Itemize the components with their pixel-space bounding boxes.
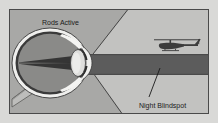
label-night-blindspot: Night Blindspot	[139, 102, 186, 110]
eye-lens-highlight	[72, 53, 80, 74]
night-blindspot-band-bottom-edge	[86, 74, 209, 75]
night-blindspot-band-top-edge	[86, 54, 209, 55]
night-blindspot-figure: Rods Active Night Blindspot	[0, 0, 218, 123]
night-blindspot-band	[86, 54, 209, 75]
label-rods-active: Rods Active	[42, 19, 79, 26]
